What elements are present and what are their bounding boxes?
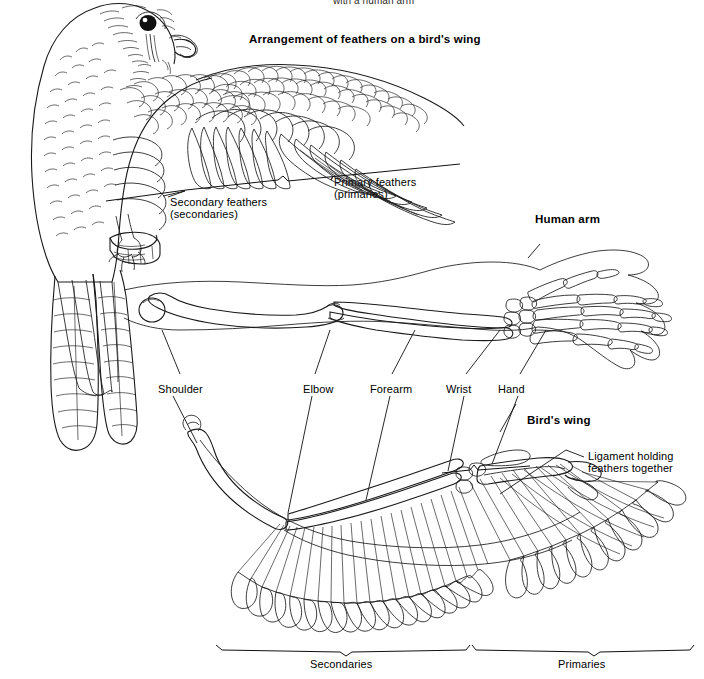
- leader-hand-down: [492, 396, 518, 464]
- leader-hand-up: [520, 330, 546, 374]
- human-arm-skeleton-figure: [124, 250, 672, 369]
- leader-forearm-down: [366, 396, 390, 500]
- leader-birds-wing-title: [500, 404, 516, 432]
- leader-shoulder-down: [173, 396, 197, 443]
- leader-forearm-up: [392, 330, 415, 374]
- perched-falcon-figure: [32, 4, 257, 451]
- diagram-canvas: with a human arm Arrangement of feathers…: [0, 0, 704, 679]
- leader-elbow-down: [288, 396, 312, 513]
- bird-wing-skeleton-figure: [183, 415, 686, 632]
- bottom-braces-group: [216, 645, 694, 656]
- outstretched-wing-figure: [106, 65, 464, 225]
- leader-shoulder-up: [162, 330, 180, 374]
- brace-secondaries: [216, 645, 470, 656]
- wing-feather-brace: [106, 164, 460, 201]
- leader-elbow-up: [315, 330, 330, 374]
- leader-lines-group: [162, 176, 584, 513]
- leader-human-arm-title: [528, 244, 540, 258]
- bird-hand-brace: [442, 465, 530, 473]
- leader-wrist-up: [466, 330, 500, 374]
- falcon-eye: [140, 15, 157, 31]
- brace-primaries: [472, 645, 694, 656]
